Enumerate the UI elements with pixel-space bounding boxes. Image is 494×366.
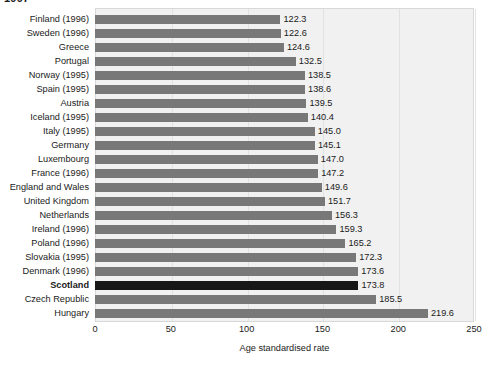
bar [95,57,296,66]
bar-value-label: 147.0 [321,152,344,166]
x-tick-label-250: 250 [466,324,481,334]
category-label: Sweden (1996) [0,26,89,40]
bar-row: Luxembourg147.0 [0,152,494,166]
bar-row: Iceland (1995)140.4 [0,110,494,124]
bar-row: France (1996)147.2 [0,166,494,180]
category-label: Denmark (1996) [0,264,89,278]
bar-value-label: 140.4 [311,110,334,124]
bar-value-label: 173.8 [361,278,384,292]
bar [95,43,284,52]
bar-value-label: 151.7 [328,194,351,208]
bar-value-label: 122.6 [284,26,307,40]
bar [95,267,358,276]
bar-row: Ireland (1996)159.3 [0,222,494,236]
bar-value-label: 219.6 [431,306,454,320]
category-label: England and Wales [0,180,89,194]
bar [95,281,358,290]
x-tick-label-0: 0 [92,324,97,334]
bar-row: Austria139.5 [0,96,494,110]
bar-value-label: 149.6 [325,180,348,194]
category-label: Portugal [0,54,89,68]
category-label: Italy (1995) [0,124,89,138]
bar [95,183,322,192]
bar-value-label: 156.3 [335,208,358,222]
category-label: Iceland (1995) [0,110,89,124]
bar [95,85,305,94]
bar [95,225,336,234]
category-label: Czech Republic [0,292,89,306]
category-label: Netherlands [0,208,89,222]
category-label: Poland (1996) [0,236,89,250]
x-tick-label-100: 100 [239,324,254,334]
bar-chart-figure: 1997 Finland (1996)122.3Sweden (1996)122… [0,0,494,366]
bar [95,99,306,108]
category-label: Scotland [0,278,89,292]
bar-value-label: 132.5 [299,54,322,68]
bar [95,197,325,206]
x-tick-label-50: 50 [166,324,176,334]
bar-value-label: 139.5 [309,96,332,110]
bar-row: England and Wales149.6 [0,180,494,194]
bar-value-label: 138.6 [308,82,331,96]
bar [95,71,305,80]
bar [95,113,308,122]
bar-value-label: 124.6 [287,40,310,54]
category-label: Greece [0,40,89,54]
bar-row: Poland (1996)165.2 [0,236,494,250]
category-label: Austria [0,96,89,110]
bar [95,295,376,304]
bar-value-label: 165.2 [348,236,371,250]
year-caption: 1997 [4,0,29,4]
x-axis: 050100150200250 [0,322,494,342]
bar [95,169,318,178]
x-tick-label-200: 200 [391,324,406,334]
category-label: United Kingdom [0,194,89,208]
category-label: Slovakia (1995) [0,250,89,264]
bar [95,211,332,220]
bar-row: United Kingdom151.7 [0,194,494,208]
bar [95,309,428,318]
category-label: Spain (1995) [0,82,89,96]
category-label: Hungary [0,306,89,320]
bar-row: Finland (1996)122.3 [0,12,494,26]
bar-row: Czech Republic185.5 [0,292,494,306]
bar-row: Norway (1995)138.5 [0,68,494,82]
bar-value-label: 122.3 [283,12,306,26]
bar-row: Italy (1995)145.0 [0,124,494,138]
bar-row: Portugal132.5 [0,54,494,68]
bar [95,155,318,164]
bar [95,29,281,38]
bar-row: Hungary219.6 [0,306,494,320]
bar-row: Spain (1995)138.6 [0,82,494,96]
bar-row: Slovakia (1995)172.3 [0,250,494,264]
bar-value-label: 185.5 [379,292,402,306]
category-label: Luxembourg [0,152,89,166]
bar [95,253,356,262]
bar-value-label: 145.1 [318,138,341,152]
category-label: Norway (1995) [0,68,89,82]
category-label: Germany [0,138,89,152]
category-label: Ireland (1996) [0,222,89,236]
bar [95,15,280,24]
bar-value-label: 159.3 [339,222,362,236]
bar-value-label: 138.5 [308,68,331,82]
bar-row: Sweden (1996)122.6 [0,26,494,40]
bar-row: Netherlands156.3 [0,208,494,222]
x-axis-title: Age standardised rate [95,343,474,353]
bar [95,239,345,248]
bar-value-label: 147.2 [321,166,344,180]
category-label: France (1996) [0,166,89,180]
bar-row: Scotland173.8 [0,278,494,292]
bar [95,141,315,150]
bar-value-label: 173.6 [361,264,384,278]
x-tick-label-150: 150 [315,324,330,334]
bar-row: Greece124.6 [0,40,494,54]
bar [95,127,315,136]
bar-value-label: 172.3 [359,250,382,264]
bar-row: Germany145.1 [0,138,494,152]
bar-row: Denmark (1996)173.6 [0,264,494,278]
category-label: Finland (1996) [0,12,89,26]
bar-rows-container: Finland (1996)122.3Sweden (1996)122.6Gre… [0,8,494,322]
bar-value-label: 145.0 [318,124,341,138]
